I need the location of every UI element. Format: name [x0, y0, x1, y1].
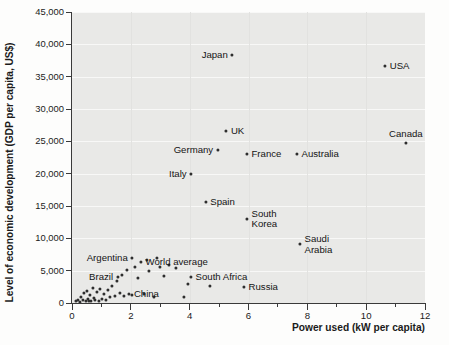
data-point — [115, 279, 118, 282]
y-tick-mark — [66, 206, 72, 207]
data-point-label: Argentina — [87, 253, 128, 263]
data-point — [137, 276, 140, 279]
data-point-label: Italy — [169, 168, 187, 178]
data-point-label: Saudi Arabia — [305, 234, 333, 255]
x-tick-label: 2 — [128, 310, 133, 321]
y-tick-label: 35,000 — [35, 71, 64, 82]
y-tick-mark — [66, 238, 72, 239]
y-tick-mark — [66, 141, 72, 142]
data-point — [106, 289, 109, 292]
data-point — [86, 289, 89, 292]
y-axis-line — [71, 12, 72, 304]
x-axis-title: Power used (kW per capita) — [72, 322, 425, 333]
data-point-labeled — [231, 53, 234, 56]
x-tick-label: 12 — [420, 310, 431, 321]
data-point — [110, 285, 113, 288]
data-point — [113, 294, 116, 297]
scatter-chart-figure: Level of economic development (GDP per c… — [0, 0, 449, 345]
x-tick-label: 0 — [69, 310, 74, 321]
y-tick-label: 5,000 — [41, 265, 64, 276]
x-tick-mark-minor — [277, 304, 278, 307]
data-point-labeled — [140, 261, 143, 264]
y-tick-mark — [66, 173, 72, 174]
data-point-labeled — [216, 149, 219, 152]
y-tick-mark — [66, 270, 72, 271]
y-tick-label: 15,000 — [35, 200, 64, 211]
y-axis-title: Level of economic development (GDP per c… — [0, 0, 18, 345]
data-point-labeled — [116, 276, 119, 279]
data-point-labeled — [295, 153, 298, 156]
y-tick-label: 10,000 — [35, 232, 64, 243]
x-tick-mark-minor — [160, 304, 161, 307]
data-point-label: USA — [390, 60, 410, 70]
data-point-labeled — [404, 142, 407, 145]
data-point — [89, 294, 92, 297]
data-point — [134, 265, 137, 268]
y-tick-mark — [66, 76, 72, 77]
x-tick-mark-minor — [336, 304, 337, 307]
data-point-label: Russia — [249, 282, 278, 292]
data-point-label: Germany — [174, 145, 213, 155]
data-point — [98, 288, 101, 291]
data-point-label: Japan — [202, 49, 228, 59]
data-point-labeled — [384, 64, 387, 67]
data-point-label: Spain — [210, 197, 235, 207]
x-tick-mark-minor — [101, 304, 102, 307]
data-point-label: France — [252, 149, 282, 159]
data-point — [102, 292, 105, 295]
data-point-label: South Africa — [196, 271, 248, 281]
data-point — [209, 284, 212, 287]
gridline-vertical — [366, 12, 367, 303]
y-tick-label: 25,000 — [35, 135, 64, 146]
data-point — [91, 287, 94, 290]
x-tick-label: 10 — [361, 310, 372, 321]
y-tick-mark — [66, 109, 72, 110]
y-tick-label: 20,000 — [35, 168, 64, 179]
data-point-labeled — [190, 172, 193, 175]
data-point-label: Canada — [389, 129, 423, 139]
data-point — [148, 270, 151, 273]
plot-area: JapanUSACanadaUKGermanyFranceAustraliaIt… — [72, 12, 425, 303]
data-point — [100, 297, 103, 300]
y-tick-label: 0 — [59, 297, 64, 308]
data-point-label: China — [134, 289, 159, 299]
x-tick-label: 4 — [187, 310, 192, 321]
x-tick-mark-minor — [219, 304, 220, 307]
data-point — [104, 299, 107, 302]
data-point-labeled — [225, 129, 228, 132]
data-point — [123, 294, 126, 297]
data-point — [182, 295, 185, 298]
data-point-labeled — [298, 243, 301, 246]
data-point-label: UK — [231, 126, 244, 136]
data-point — [95, 291, 98, 294]
data-point-labeled — [243, 285, 246, 288]
x-tick-mark-minor — [395, 304, 396, 307]
data-point-labeled — [131, 257, 134, 260]
y-tick-label: 40,000 — [35, 38, 64, 49]
data-point-label: World average — [146, 257, 208, 267]
y-tick-label: 45,000 — [35, 6, 64, 17]
data-point-labeled — [190, 275, 193, 278]
data-point-labeled — [204, 201, 207, 204]
x-tick-label: 6 — [246, 310, 251, 321]
y-tick-label: 30,000 — [35, 103, 64, 114]
y-tick-mark — [66, 12, 72, 13]
gridline-vertical — [249, 12, 250, 303]
y-tick-mark — [66, 44, 72, 45]
x-tick-label: 8 — [305, 310, 310, 321]
data-point-label: Brazil — [89, 272, 113, 282]
data-point — [108, 296, 111, 299]
data-point — [120, 273, 123, 276]
data-point — [162, 274, 165, 277]
data-point — [118, 292, 121, 295]
data-point-label: Australia — [302, 149, 339, 159]
data-point-label: South Korea — [252, 208, 278, 229]
